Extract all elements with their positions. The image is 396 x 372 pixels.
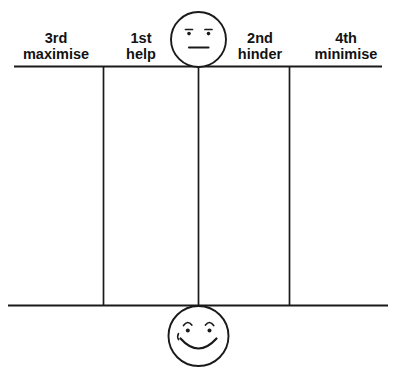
segment-label-maximise: 3rd maximise bbox=[0, 30, 112, 62]
segment-word-help: help bbox=[110, 46, 172, 62]
segment-word-maximise: maximise bbox=[0, 46, 112, 62]
segment-word-minimise: minimise bbox=[296, 46, 396, 62]
segment-rank-minimise: 4th bbox=[296, 30, 396, 46]
segment-rank-hinder: 2nd bbox=[224, 30, 296, 46]
smiling-face-icon bbox=[169, 306, 229, 366]
segment-label-hinder: 2nd hinder bbox=[224, 30, 296, 62]
diagram-canvas: 3rd maximise 1st help 2nd hinder 4th min… bbox=[0, 0, 396, 372]
segment-word-hinder: hinder bbox=[224, 46, 296, 62]
neutral-face-icon bbox=[171, 12, 226, 67]
segment-rank-help: 1st bbox=[110, 30, 172, 46]
segment-label-minimise: 4th minimise bbox=[296, 30, 396, 62]
segment-label-help: 1st help bbox=[110, 30, 172, 62]
segment-rank-maximise: 3rd bbox=[0, 30, 112, 46]
